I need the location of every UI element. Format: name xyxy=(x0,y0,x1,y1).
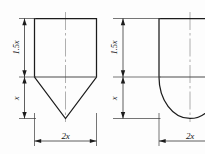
left-arrow-body-bottom xyxy=(22,70,26,77)
right-arrow-hemi-top xyxy=(121,77,125,84)
right-arrow-body-top xyxy=(121,19,125,26)
right-arrow-body-bottom xyxy=(121,70,125,77)
left-arrow-width-left xyxy=(35,139,42,143)
left-arrow-body-top xyxy=(22,19,26,26)
left-arrow-cone-top xyxy=(22,77,26,84)
left-body-height-label: 1.5x xyxy=(11,40,21,54)
left-arrow-width-right xyxy=(90,139,97,143)
engineering-diagram: 1.5x x 2x xyxy=(0,0,205,154)
right-body-height-label: 1.5x xyxy=(109,40,119,54)
left-width-label: 2x xyxy=(61,131,69,141)
diagram-canvas: 1.5x x 2x xyxy=(0,0,205,154)
left-figure-conical-tank: 1.5x x 2x xyxy=(11,12,97,146)
right-width-label: 2x xyxy=(186,131,194,141)
left-arrow-cone-bottom xyxy=(22,112,26,119)
right-arrow-width-left xyxy=(159,139,166,143)
right-figure-hemispherical-tank: 1.5x x 2x xyxy=(109,12,205,146)
left-bottom-height-label: x xyxy=(11,96,21,101)
right-bottom-height-label: x xyxy=(109,96,119,101)
right-tank-outline xyxy=(159,19,205,119)
right-arrow-hemi-bottom xyxy=(121,112,125,119)
